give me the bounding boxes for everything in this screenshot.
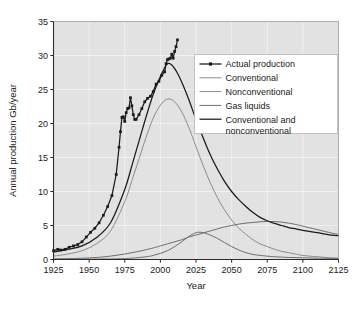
data-point-marker — [129, 96, 132, 99]
legend-label: Conventional — [226, 73, 279, 83]
data-point-marker — [131, 104, 134, 107]
x-tick-label: 1925 — [43, 265, 63, 275]
data-point-marker — [85, 236, 88, 239]
chart-figure: 0510152025303519251950197520002025205020… — [0, 0, 355, 310]
data-point-marker — [102, 214, 105, 217]
y-tick-label: 15 — [38, 153, 48, 163]
x-tick-label: 2125 — [328, 265, 348, 275]
data-point-marker — [123, 120, 126, 123]
data-point-marker — [111, 194, 114, 197]
data-point-marker — [125, 111, 128, 114]
data-point-marker — [68, 246, 71, 249]
data-point-marker — [135, 118, 138, 121]
data-point-marker — [172, 57, 175, 60]
y-tick-label: 25 — [38, 85, 48, 95]
data-point-marker — [119, 130, 122, 133]
data-point-marker — [89, 231, 92, 234]
data-point-marker — [176, 39, 179, 42]
x-tick-label: 2025 — [186, 265, 206, 275]
data-point-marker — [128, 107, 131, 110]
y-tick-label: 0 — [43, 255, 48, 265]
data-point-marker — [163, 70, 166, 73]
y-tick-label: 5 — [43, 221, 48, 231]
data-point-marker — [59, 249, 62, 252]
data-point-marker — [175, 45, 178, 48]
data-point-marker — [149, 95, 152, 98]
legend-label: Conventional and — [226, 115, 296, 125]
data-point-marker — [146, 97, 149, 100]
data-point-marker — [160, 74, 163, 77]
data-point-marker — [170, 53, 173, 56]
legend-swatch-marker — [209, 62, 212, 65]
x-tick-label: 2100 — [293, 265, 313, 275]
data-point-marker — [138, 113, 141, 116]
data-point-marker — [122, 115, 125, 118]
data-point-marker — [155, 83, 158, 86]
legend-label: Actual production — [226, 59, 296, 69]
data-point-marker — [141, 107, 144, 110]
data-point-marker — [152, 90, 155, 93]
data-point-marker — [158, 80, 161, 83]
chart-legend: Actual productionConventionalNonconventi… — [195, 55, 338, 137]
legend-label: Gas liquids — [226, 101, 271, 111]
data-point-marker — [173, 50, 176, 53]
x-tick-label: 2050 — [222, 265, 242, 275]
data-point-marker — [98, 221, 101, 224]
legend-label-continued: nonconventional — [226, 126, 292, 136]
data-point-marker — [169, 57, 172, 60]
data-point-marker — [81, 240, 84, 243]
data-point-marker — [132, 113, 135, 116]
y-tick-label: 20 — [38, 119, 48, 129]
data-point-marker — [72, 245, 75, 248]
x-axis-title: Year — [186, 280, 205, 291]
data-point-marker — [76, 243, 79, 246]
data-point-marker — [165, 62, 168, 65]
data-point-marker — [64, 248, 67, 251]
x-tick-label: 2000 — [150, 265, 170, 275]
data-point-marker — [56, 248, 59, 251]
x-tick-label: 1950 — [79, 265, 99, 275]
x-tick-label: 2075 — [257, 265, 277, 275]
data-point-marker — [93, 227, 96, 230]
y-tick-label: 10 — [38, 187, 48, 197]
x-tick-label: 1975 — [115, 265, 135, 275]
production-line-chart: 0510152025303519251950197520002025205020… — [0, 0, 355, 310]
legend-label: Nonconventional — [226, 87, 293, 97]
data-point-marker — [106, 205, 109, 208]
data-point-marker — [143, 100, 146, 103]
y-tick-label: 30 — [38, 51, 48, 61]
data-point-marker — [118, 146, 121, 149]
y-axis-title: Annual production Gb/year — [7, 84, 18, 197]
y-tick-label: 35 — [38, 17, 48, 27]
data-point-marker — [115, 173, 118, 176]
